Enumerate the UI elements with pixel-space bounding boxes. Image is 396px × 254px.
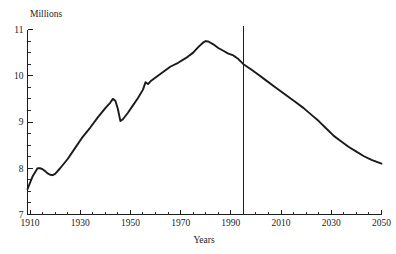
y-tick-label: 10 <box>14 71 24 81</box>
data-series-group <box>28 41 382 189</box>
y-axis: 7891011 <box>14 25 33 220</box>
x-tick-label: 2030 <box>322 218 341 228</box>
y-tick-label: 11 <box>14 25 23 35</box>
y-axis-label: Millions <box>30 9 63 19</box>
x-axis-label: Years <box>193 235 215 245</box>
x-tick-label: 1990 <box>221 218 240 228</box>
x-tick-label: 1950 <box>121 218 140 228</box>
line-chart-figure: 7891011 19101930195019701990201020302050… <box>0 0 396 254</box>
x-tick-label: 2010 <box>272 218 291 228</box>
chart-canvas: 7891011 19101930195019701990201020302050… <box>0 0 396 254</box>
x-tick-label: 1910 <box>21 218 40 228</box>
x-tick-label: 1970 <box>171 218 190 228</box>
y-tick-label: 8 <box>19 164 24 174</box>
x-tick-label: 2050 <box>372 218 391 228</box>
y-tick-label: 9 <box>19 117 24 127</box>
x-tick-label: 1930 <box>71 218 90 228</box>
series-line-population <box>28 41 382 189</box>
x-axis: 19101930195019701990201020302050 <box>21 210 392 228</box>
